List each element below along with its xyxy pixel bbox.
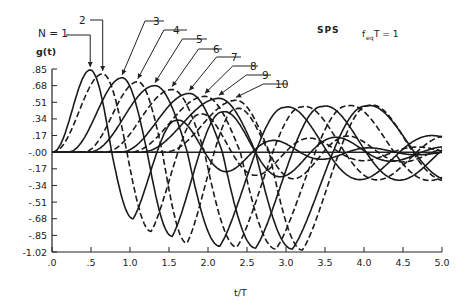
y-tick-label: -.51: [28, 197, 47, 208]
y-tick-label: -.68: [28, 213, 47, 224]
chart-title: SPS: [317, 25, 340, 35]
y-tick-label: -.34: [28, 180, 47, 191]
callout-label-n2: 2: [79, 14, 86, 26]
y-tick-label: -.85: [28, 230, 47, 241]
y-tick-label: -1.02: [22, 247, 47, 258]
x-tick-label: 2.5: [239, 257, 254, 268]
callout-label-n6: 6: [213, 43, 220, 55]
x-tick-label: 3.5: [317, 257, 332, 268]
annotation-sub: eq: [366, 34, 374, 42]
callout-label-n4: 4: [173, 24, 180, 36]
x-tick-label: 3.0: [278, 257, 293, 268]
y-tick-label: .17: [32, 130, 47, 141]
y-tick-label: .68: [32, 80, 47, 91]
x-tick-label: 1.0: [122, 257, 137, 268]
x-axis-label: t/T: [234, 287, 247, 298]
x-tick-label: 4.0: [356, 257, 371, 268]
curve-n4: [52, 82, 442, 244]
callout-arrow-n3: [122, 21, 164, 75]
impulse-response-chart: .85.68.51.34.17-.00-.17-.34-.51-.68-.85-…: [0, 0, 468, 308]
callout-arrow-n1: [66, 35, 93, 67]
y-tick-label: .34: [32, 113, 47, 124]
callout-arrow-n2: [90, 20, 105, 71]
callout-arrow-n5: [155, 39, 207, 83]
x-tick-label: 5.0: [434, 257, 449, 268]
callout-label-n8: 8: [250, 60, 257, 72]
callout-label-n1: N = 1: [38, 27, 68, 39]
callout-label-n10: 10: [275, 78, 288, 90]
callout-label-n7: 7: [231, 51, 238, 63]
annotation-feq: f eq T = 1: [362, 29, 399, 42]
x-tick-label: .0: [47, 257, 56, 268]
y-tick-label: -.17: [28, 163, 47, 174]
y-tick-label: .85: [32, 64, 47, 75]
annotation-rest: T = 1: [373, 29, 399, 39]
x-tick-label: 4.5: [395, 257, 410, 268]
x-tick-label: .5: [86, 257, 95, 268]
curves: [52, 70, 442, 250]
y-axis-label: g(t): [36, 46, 56, 57]
callout-label-n3: 3: [153, 15, 160, 27]
x-tick-label: 2.0: [200, 257, 215, 268]
y-tick-label: .51: [32, 97, 47, 108]
y-tick-label: -.00: [28, 147, 47, 158]
callout-label-n5: 5: [196, 33, 203, 45]
callout-label-n9: 9: [262, 69, 269, 81]
x-tick-label: 1.5: [161, 257, 176, 268]
